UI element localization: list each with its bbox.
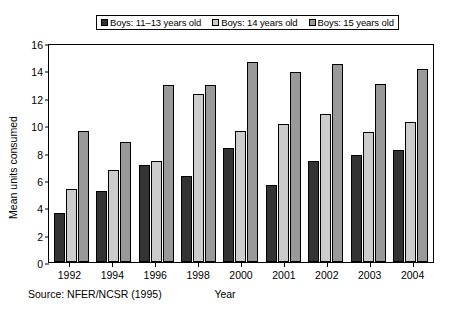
bar-1992-series-1 (66, 189, 77, 262)
bar-2004-series-2 (417, 69, 428, 262)
source-note: Source: NFER/NCSR (1995) (28, 288, 162, 300)
legend-label-boys-15: Boys: 15 years old (318, 18, 394, 28)
y-tick-mark-2 (45, 236, 49, 237)
x-tick-mark-2000 (241, 263, 242, 267)
bar-2004-series-1 (405, 122, 416, 262)
bar-group-2001 (262, 45, 304, 262)
bar-chart-figure: Boys: 11–13 years old Boys: 14 years old… (0, 0, 450, 312)
bar-2001-series-1 (278, 124, 289, 262)
y-tick-mark-16 (45, 45, 49, 46)
bar-2003-series-2 (375, 84, 386, 262)
bar-1996-series-0 (139, 165, 150, 262)
x-tick-mark-1994 (112, 263, 113, 267)
x-tick-label-1992: 1992 (48, 269, 91, 281)
x-tick-mark-1996 (155, 263, 156, 267)
x-tick-mark-2004 (413, 263, 414, 267)
bar-2001-series-0 (266, 185, 277, 262)
bar-1992-series-2 (78, 131, 89, 262)
x-tick-mark-2001 (284, 263, 285, 267)
bar-2004-series-0 (393, 150, 404, 262)
x-tick-label-2000: 2000 (220, 269, 263, 281)
bar-group-2004 (390, 45, 432, 262)
bar-1994-series-2 (120, 142, 131, 262)
legend-swatch-boys-14 (212, 19, 219, 26)
legend-swatch-boys-11-13 (101, 19, 108, 26)
bar-1996-series-1 (151, 161, 162, 262)
x-tick-label-2001: 2001 (262, 269, 305, 281)
chart-legend: Boys: 11–13 years old Boys: 14 years old… (96, 15, 399, 30)
y-tick-mark-12 (45, 99, 49, 100)
bar-2003-series-1 (363, 132, 374, 262)
x-tick-label-1996: 1996 (134, 269, 177, 281)
x-tick-label-1994: 1994 (91, 269, 134, 281)
bar-groups (50, 45, 432, 262)
legend-entry-boys-15: Boys: 15 years old (309, 18, 394, 28)
x-tick-2002: 2002 (305, 263, 348, 285)
plot-area: 0246810121416 (48, 44, 434, 263)
x-tick-mark-1998 (198, 263, 199, 267)
bar-2000-series-2 (247, 62, 258, 262)
x-tick-label-2002: 2002 (305, 269, 348, 281)
x-tick-mark-1992 (69, 263, 70, 267)
x-tick-2001: 2001 (262, 263, 305, 285)
bar-2003-series-0 (351, 155, 362, 262)
x-tick-2004: 2004 (391, 263, 434, 285)
bar-2002-series-1 (320, 114, 331, 262)
bar-2002-series-0 (308, 161, 319, 262)
legend-label-boys-14: Boys: 14 years old (221, 18, 297, 28)
bar-2000-series-0 (223, 148, 234, 262)
legend-entry-boys-11-13: Boys: 11–13 years old (101, 18, 201, 28)
x-tick-1998: 1998 (177, 263, 220, 285)
x-axis-ticks: 199219941996199820002001200220032004 (48, 263, 434, 285)
y-tick-mark-8 (45, 154, 49, 155)
bar-1994-series-0 (96, 191, 107, 262)
bar-1994-series-1 (108, 170, 119, 262)
bar-group-1992 (50, 45, 92, 262)
bar-2002-series-2 (332, 64, 343, 262)
legend-entry-boys-14: Boys: 14 years old (212, 18, 297, 28)
y-tick-mark-4 (45, 209, 49, 210)
bar-2001-series-2 (290, 72, 301, 262)
x-tick-1992: 1992 (48, 263, 91, 285)
x-tick-1994: 1994 (91, 263, 134, 285)
bar-1998-series-1 (193, 94, 204, 262)
bar-2000-series-1 (235, 131, 246, 262)
y-axis-label: Mean units consumed (6, 58, 20, 277)
bar-1998-series-0 (181, 176, 192, 262)
bar-group-2000 (220, 45, 262, 262)
bar-group-1996 (135, 45, 177, 262)
x-tick-2000: 2000 (220, 263, 263, 285)
x-tick-label-2004: 2004 (391, 269, 434, 281)
x-tick-1996: 1996 (134, 263, 177, 285)
x-tick-label-2003: 2003 (348, 269, 391, 281)
x-tick-label-1998: 1998 (177, 269, 220, 281)
bar-group-1994 (92, 45, 134, 262)
y-tick-mark-14 (45, 72, 49, 73)
x-tick-2003: 2003 (348, 263, 391, 285)
bar-group-2003 (347, 45, 389, 262)
legend-label-boys-11-13: Boys: 11–13 years old (110, 18, 201, 28)
bar-1998-series-2 (205, 85, 216, 262)
x-tick-mark-2003 (370, 263, 371, 267)
bar-group-1998 (177, 45, 219, 262)
x-tick-mark-2002 (327, 263, 328, 267)
bar-group-2002 (305, 45, 347, 262)
y-tick-mark-10 (45, 127, 49, 128)
bar-1996-series-2 (163, 85, 174, 262)
legend-swatch-boys-15 (309, 19, 316, 26)
bar-1992-series-0 (54, 213, 65, 262)
y-tick-mark-6 (45, 181, 49, 182)
